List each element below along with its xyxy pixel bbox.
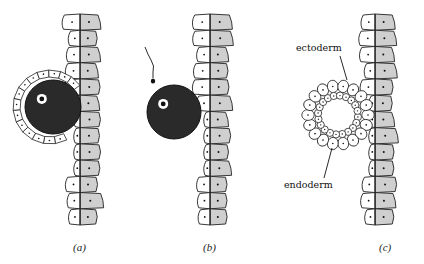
cell-nucleus <box>314 133 316 135</box>
egg-cell <box>25 80 81 134</box>
cell-nucleus <box>87 216 89 218</box>
cell-nucleus <box>217 119 219 121</box>
cell-nucleus <box>87 70 89 72</box>
inner-cell <box>80 63 98 79</box>
cell-nucleus <box>383 167 385 169</box>
cell-nucleus <box>88 86 90 88</box>
inner-cell <box>80 14 101 30</box>
inner-cell <box>210 46 229 62</box>
cell-nucleus <box>73 82 75 84</box>
cell-nucleus <box>206 135 208 137</box>
cell-nucleus <box>88 119 90 121</box>
cell-nucleus <box>206 167 208 169</box>
inner-cell <box>80 193 104 209</box>
cell-nucleus <box>367 54 369 56</box>
cell-nucleus <box>87 183 89 185</box>
cell-nucleus <box>342 143 344 145</box>
cell-nucleus <box>339 95 340 96</box>
cell-nucleus <box>365 104 367 106</box>
cell-nucleus <box>71 21 73 23</box>
cell-nucleus <box>43 73 45 75</box>
cell-nucleus <box>352 89 354 91</box>
cell-nucleus <box>73 54 75 56</box>
inner-cell <box>80 95 100 111</box>
cell-nucleus <box>317 112 318 113</box>
cell-nucleus <box>88 167 90 169</box>
outer-cell <box>359 46 375 62</box>
ectoderm-label: ectoderm <box>296 42 342 53</box>
inner-cell <box>375 30 397 46</box>
cell-nucleus <box>201 21 203 23</box>
inner-cell <box>375 46 395 62</box>
cell-nucleus <box>76 151 78 153</box>
cell-nucleus <box>219 102 221 104</box>
cell-nucleus <box>371 167 373 169</box>
cell-nucleus <box>206 119 208 121</box>
cell-nucleus <box>18 93 20 95</box>
cell-nucleus <box>219 21 221 23</box>
cell-nucleus <box>89 200 91 202</box>
cell-nucleus <box>89 151 91 153</box>
cell-nucleus <box>384 70 386 72</box>
cell-nucleus <box>371 151 373 153</box>
cell-nucleus <box>203 102 205 104</box>
inner-cell <box>210 160 232 176</box>
cell-nucleus <box>204 200 206 202</box>
cell-nucleus <box>347 131 348 132</box>
egg-nucleolus <box>161 102 166 107</box>
embryo-diagram: ectoderm endoderm (a) (b) (c) <box>0 0 424 264</box>
inner-cell <box>375 14 395 30</box>
cell-nucleus <box>203 54 205 56</box>
cell-nucleus <box>76 135 78 137</box>
cell-nucleus <box>16 104 18 106</box>
cell-nucleus <box>87 37 89 39</box>
cell-nucleus <box>370 216 372 218</box>
cell-nucleus <box>88 135 90 137</box>
caption-c: (c) <box>379 241 392 254</box>
cell-nucleus <box>201 86 203 88</box>
cell-nucleus <box>357 116 358 117</box>
cell-nucleus <box>49 140 51 142</box>
outer-cell <box>192 14 210 30</box>
cell-nucleus <box>365 124 367 126</box>
cell-nucleus <box>309 104 311 106</box>
cell-nucleus <box>17 115 19 117</box>
sperm-head <box>151 78 155 83</box>
caption-a: (a) <box>73 241 86 254</box>
cell-nucleus <box>382 119 384 121</box>
cell-nucleus <box>24 84 26 86</box>
endoderm-leader-line <box>324 148 332 178</box>
cell-nucleus <box>309 124 311 126</box>
cell-nucleus <box>369 70 371 72</box>
cell-nucleus <box>383 200 385 202</box>
cell-nucleus <box>87 102 89 104</box>
cell-nucleus <box>367 114 369 116</box>
cell-nucleus <box>352 127 353 128</box>
cell-nucleus <box>345 96 346 97</box>
egg-nucleolus <box>39 97 44 102</box>
cell-nucleus <box>356 122 357 123</box>
cell-nucleus <box>332 86 334 88</box>
cell-nucleus <box>382 102 384 104</box>
cell-nucleus <box>217 151 219 153</box>
cell-nucleus <box>322 101 323 102</box>
cell-nucleus <box>202 70 204 72</box>
cell-nucleus <box>329 132 330 133</box>
outer-cell <box>193 30 210 46</box>
cell-nucleus <box>203 184 205 186</box>
cell-nucleus <box>382 86 384 88</box>
egg-cell <box>147 85 201 139</box>
endoderm-label: endoderm <box>284 179 333 190</box>
ectoderm-leader-line <box>340 56 347 80</box>
inner-cell <box>80 46 101 62</box>
cell-nucleus <box>352 139 354 141</box>
outer-cell <box>359 30 375 46</box>
cell-nucleus <box>332 143 334 145</box>
cell-nucleus <box>368 184 370 186</box>
panel-b <box>145 14 233 225</box>
cell-nucleus <box>322 139 324 141</box>
cell-nucleus <box>217 216 219 218</box>
cell-nucleus <box>383 37 385 39</box>
cell-nucleus <box>74 37 76 39</box>
cell-nucleus <box>74 216 76 218</box>
